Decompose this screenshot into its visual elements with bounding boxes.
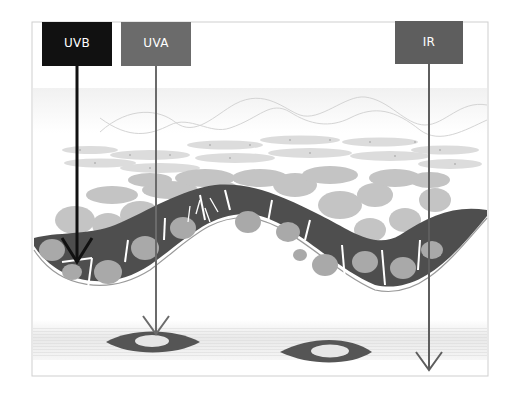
uvb-label-text: UVB <box>64 36 90 50</box>
uvb-label: UVB <box>42 22 112 66</box>
uva-label: UVA <box>121 22 191 66</box>
ir-label: IR <box>395 21 463 64</box>
dermis-stripes <box>33 326 487 356</box>
ir-label-text: IR <box>423 35 435 49</box>
surface-band <box>33 88 487 133</box>
uva-label-text: UVA <box>143 36 168 50</box>
